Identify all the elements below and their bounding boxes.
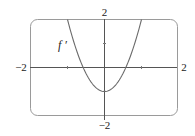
y-max-label: 2 — [102, 6, 108, 18]
x-min-label: −2 — [15, 61, 27, 73]
y-min-label: −2 — [99, 119, 111, 131]
curve-label: f ′ — [58, 38, 67, 52]
x-max-label: 2 — [181, 61, 187, 73]
chart: 2 −2 −2 2 f ′ — [0, 0, 195, 136]
